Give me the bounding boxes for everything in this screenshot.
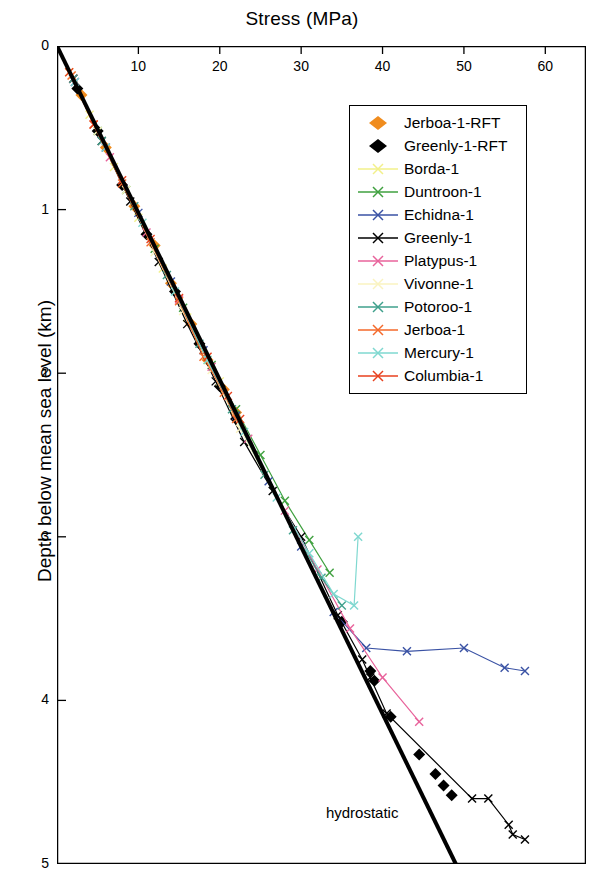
legend-x-icon [356,274,400,294]
chart-left-axis-title: Depth below mean sea level (km) [34,181,56,701]
hydrostatic-label: hydrostatic [326,804,399,821]
legend-item-label: Jerboa-1 [400,321,465,339]
legend-item-label: Platypus-1 [400,252,477,270]
legend-item-label: Greenly-1 [400,229,472,247]
legend-symbol-svg [356,159,400,179]
y-tick-label: 4 [31,691,49,707]
legend-symbol-svg [356,343,400,363]
legend-item[interactable]: Greenly-1 [356,226,520,249]
legend-symbol-svg [356,228,400,248]
legend-x-icon [356,205,400,225]
legend-item-label: Echidna-1 [400,206,474,224]
legend-item-label: Potoroo-1 [400,298,472,316]
legend-item[interactable]: Platypus-1 [356,249,520,272]
chart-root: Stress (MPa) Depth below mean sea level … [0,0,604,883]
legend-diamond-icon [356,113,400,133]
marker-diamond [438,779,450,791]
legend-symbol-svg [356,136,400,156]
legend-symbol-svg [356,251,400,271]
legend-symbol-svg [356,113,400,133]
y-tick-label: 0 [31,37,49,53]
legend-item[interactable]: Columbia-1 [356,364,520,387]
y-tick-label: 2 [31,364,49,380]
legend-item[interactable]: Mercury-1 [356,341,520,364]
legend-item[interactable]: Echidna-1 [356,203,520,226]
chart-legend: Jerboa-1-RFTGreenly-1-RFTBorda-1Duntroon… [349,105,527,394]
legend-symbol-svg [356,205,400,225]
x-tick-label: 30 [289,58,313,74]
legend-item[interactable]: Vivonne-1 [356,272,520,295]
series-line [73,79,329,573]
y-tick-label: 5 [31,855,49,871]
legend-x-icon [356,182,400,202]
legend-item-label: Vivonne-1 [400,275,474,293]
legend-x-icon [356,320,400,340]
legend-x-icon [356,159,400,179]
x-tick-label: 40 [371,58,395,74]
legend-item-label: Columbia-1 [400,367,483,385]
legend-item[interactable]: Potoroo-1 [356,295,520,318]
legend-symbol-svg [356,366,400,386]
legend-symbol-svg [356,182,400,202]
legend-item-label: Borda-1 [400,160,459,178]
legend-x-icon [356,343,400,363]
legend-item[interactable]: Jerboa-1 [356,318,520,341]
y-tick-label: 1 [31,201,49,217]
x-tick-label: 50 [452,58,476,74]
series-line [75,82,358,606]
marker-diamond [429,768,441,780]
legend-x-icon [356,251,400,271]
legend-item[interactable]: Borda-1 [356,157,520,180]
legend-diamond-icon [356,136,400,156]
legend-x-icon [356,297,400,317]
series-mercury-1 [71,78,362,610]
legend-item[interactable]: Greenly-1-RFT [356,134,520,157]
legend-item[interactable]: Duntroon-1 [356,180,520,203]
legend-item[interactable]: Jerboa-1-RFT [356,111,520,134]
y-tick-label: 3 [31,528,49,544]
legend-item-label: Greenly-1-RFT [400,137,507,155]
x-tick-label: 20 [208,58,232,74]
legend-x-icon [356,228,400,248]
legend-item-label: Jerboa-1-RFT [400,114,500,132]
legend-symbol-svg [356,274,400,294]
chart-top-axis-title: Stress (MPa) [0,8,604,30]
legend-symbol-svg [356,320,400,340]
x-tick-label: 60 [533,58,557,74]
marker-diamond [446,789,458,801]
legend-x-icon [356,366,400,386]
legend-symbol-svg [356,297,400,317]
legend-item-label: Duntroon-1 [400,183,482,201]
x-tick-label: 10 [126,58,150,74]
legend-item-label: Mercury-1 [400,344,474,362]
